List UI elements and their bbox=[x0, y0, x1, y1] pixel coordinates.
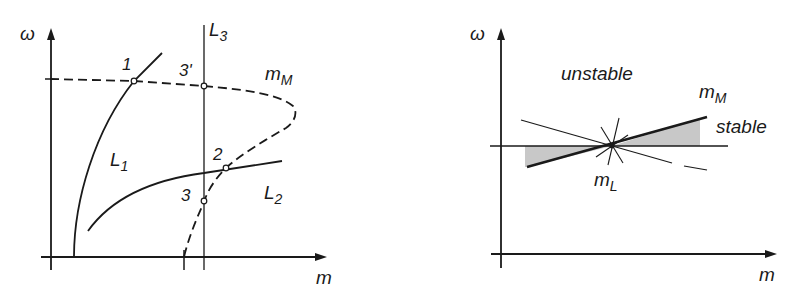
label-L1: L1 bbox=[110, 150, 128, 173]
label-unstable: unstable bbox=[561, 64, 633, 83]
left-x-axis-label: m bbox=[316, 268, 332, 287]
point-mL bbox=[610, 144, 615, 149]
intersection-points bbox=[131, 78, 229, 204]
left-x-arrow-icon bbox=[315, 253, 327, 261]
right-y-arrow-icon bbox=[497, 28, 505, 40]
right-x-arrow-icon bbox=[765, 250, 777, 258]
right-y-axis-label: ω bbox=[470, 24, 485, 43]
line-neg-slope-tail bbox=[684, 166, 707, 170]
label-point-1: 1 bbox=[122, 56, 131, 73]
point-2 bbox=[223, 165, 229, 171]
curve-mM-dashed bbox=[50, 79, 295, 257]
point-1 bbox=[131, 78, 137, 84]
label-mM-right: mM bbox=[699, 82, 727, 105]
point-3prime bbox=[201, 83, 207, 89]
point-3 bbox=[201, 198, 207, 204]
label-L2: L2 bbox=[264, 183, 282, 206]
label-stable: stable bbox=[716, 117, 767, 136]
label-point-3prime: 3' bbox=[179, 62, 192, 79]
left-y-arrow-icon bbox=[47, 28, 55, 40]
label-point-3: 3 bbox=[181, 187, 190, 204]
label-point-2: 2 bbox=[213, 146, 222, 163]
label-L3: L3 bbox=[209, 20, 227, 43]
right-x-axis-label: m bbox=[759, 265, 775, 284]
label-mL: mL bbox=[594, 170, 618, 193]
label-mM-left: mM bbox=[265, 64, 293, 87]
left-y-axis-label: ω bbox=[20, 24, 35, 43]
